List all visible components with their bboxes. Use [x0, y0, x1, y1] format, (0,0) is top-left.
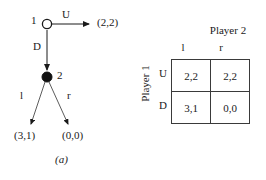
edge-node2-left	[31, 82, 45, 124]
payoff-cell-d-l: 3,1	[172, 92, 211, 124]
payoff-terminal-down-right: (0,0)	[62, 130, 83, 141]
action-label-right: r	[67, 90, 71, 101]
matrix-column-label-r: r	[202, 42, 240, 53]
payoff-cell-u-r: 2,2	[211, 60, 250, 92]
node-player2	[42, 72, 52, 82]
matrix-column-label-l: l	[164, 42, 202, 53]
node-root-player1	[42, 19, 51, 28]
action-label-down: D	[33, 41, 41, 52]
edge-node2-right	[49, 82, 68, 124]
panel-a-game-tree: 1 U D 2 l r (2,2) (3,1) (0,0) (a)	[0, 0, 133, 180]
matrix-column-player-header: Player 2	[171, 25, 266, 36]
action-label-up: U	[62, 9, 70, 20]
caption-panel-a: (a)	[55, 154, 68, 165]
matrix-row-label-d: D	[157, 100, 169, 111]
table-row: 3,1 0,0	[172, 92, 250, 124]
payoff-cell-d-r: 0,0	[211, 92, 250, 124]
payoff-matrix-table: 2,2 2,2 3,1 0,0	[171, 59, 250, 124]
matrix-row-label-u: U	[157, 68, 169, 79]
payoff-cell-u-l: 2,2	[172, 60, 211, 92]
payoff-terminal-down-left: (3,1)	[14, 130, 35, 141]
payoff-terminal-up: (2,2)	[97, 17, 118, 28]
panel-b-payoff-matrix: Player 2 l r Player 1 U D 2,2 2,2 3,1 0,…	[133, 0, 266, 180]
action-label-left: l	[20, 90, 23, 101]
matrix-row-player-header: Player 1	[140, 54, 151, 114]
figure-container: 1 U D 2 l r (2,2) (3,1) (0,0) (a) Player…	[0, 0, 266, 180]
table-row: 2,2 2,2	[172, 60, 250, 92]
node-label-player1: 1	[31, 15, 37, 26]
node-label-player2: 2	[57, 70, 63, 81]
